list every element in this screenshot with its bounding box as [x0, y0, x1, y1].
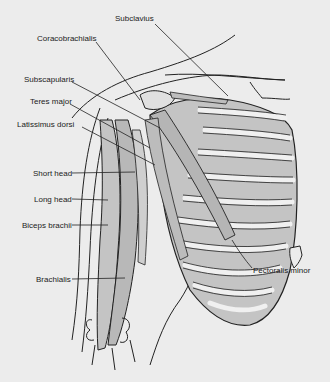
label-subclavius: Subclavius [115, 14, 154, 23]
label-teres-major: Teres major [30, 97, 72, 106]
label-brachialis: Brachialis [36, 275, 71, 284]
label-pectoralis-minor: Pectoralis minor [253, 266, 310, 275]
label-latissimus-dorsi: Latissimus dorsi [17, 120, 74, 129]
label-subscapularis: Subscapularis [24, 75, 74, 84]
label-short-head: Short head [33, 169, 72, 178]
label-biceps-brachii: Biceps brachii [22, 221, 72, 230]
anatomy-diagram [0, 0, 330, 382]
label-long-head: Long head [34, 195, 72, 204]
label-coracobrachialis: Coracobrachialis [37, 34, 97, 43]
arm-outline-lateral [72, 108, 100, 340]
